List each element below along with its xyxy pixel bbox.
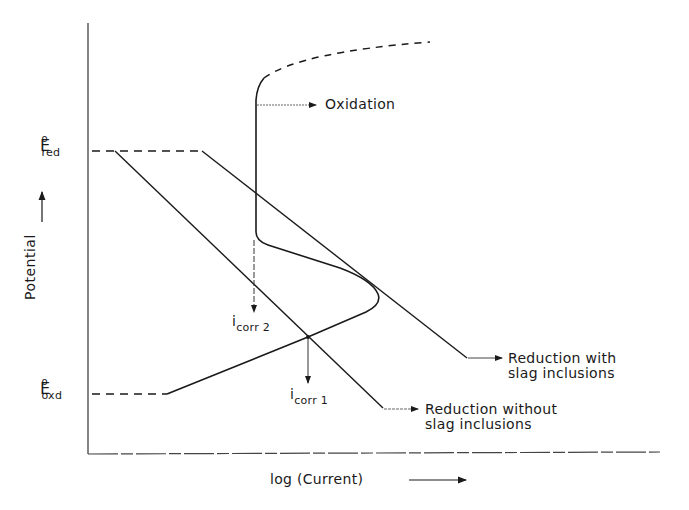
icorr1-intersection-point (306, 335, 310, 339)
x-axis-label: log (Current) (270, 472, 363, 487)
oxidation-dashed-curve (264, 42, 430, 78)
e-red-label: Eored (40, 138, 60, 155)
y-axis-label: Potential (22, 234, 38, 300)
reduction-with-label: Reduction with slag inclusions (508, 351, 616, 381)
reduction-without-slag-line (115, 151, 383, 408)
oxidation-label: Oxidation (325, 97, 395, 112)
evans-diagram (0, 0, 689, 510)
oxidation-curve (167, 78, 379, 394)
reduction-without-label: Reduction without slag inclusions (425, 402, 557, 432)
icorr2-label: icorr 2 (232, 314, 270, 330)
x-axis (88, 452, 660, 454)
e-oxd-label: Eooxd (40, 381, 62, 398)
icorr1-label: icorr 1 (290, 387, 328, 403)
